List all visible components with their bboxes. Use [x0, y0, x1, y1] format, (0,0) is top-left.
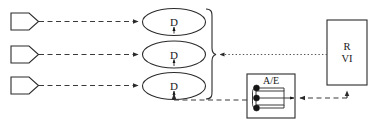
input-shape-3[interactable]	[11, 77, 39, 94]
process-3-label: D	[170, 80, 178, 92]
diagram-svg: D D D A/E R VI	[0, 0, 379, 126]
ae-box-label: A/E	[263, 75, 279, 86]
rvi-box-label-line1: R	[343, 41, 350, 52]
grouping-brace	[206, 9, 216, 99]
process-1-label: D	[170, 16, 178, 28]
ae-dot-3[interactable]	[254, 105, 260, 111]
process-2-label: D	[170, 49, 178, 61]
diagram-canvas: D D D A/E R VI	[0, 0, 379, 126]
rvi-box-label-line2: VI	[341, 53, 353, 64]
input-shape-2[interactable]	[11, 46, 39, 63]
ae-dot-1[interactable]	[254, 85, 260, 91]
ae-dot-2[interactable]	[254, 95, 260, 101]
input-shape-1[interactable]	[11, 13, 39, 30]
